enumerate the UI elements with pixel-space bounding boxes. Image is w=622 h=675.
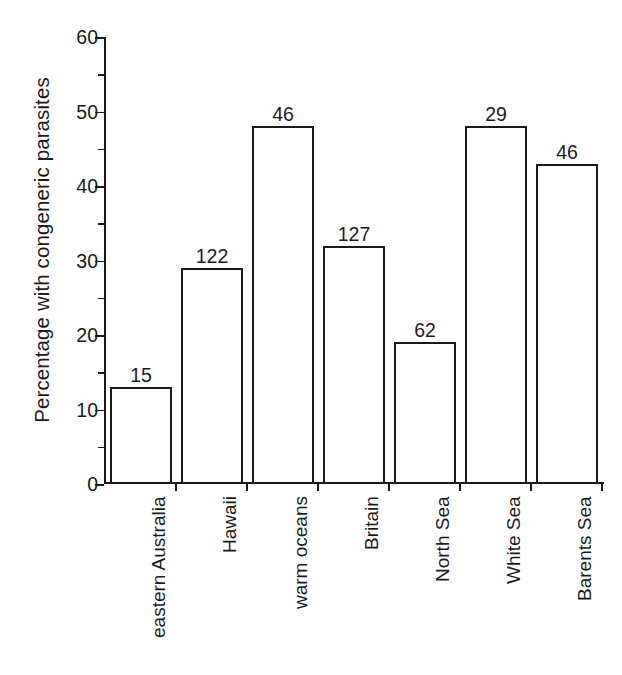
x-tick-mark bbox=[175, 484, 177, 491]
y-minor-tick-15 bbox=[98, 372, 104, 374]
y-tick-label: 30 bbox=[76, 249, 98, 272]
bar-value-label: 46 bbox=[272, 103, 294, 126]
bar-value-label: 29 bbox=[485, 103, 507, 126]
y-tick-label: 10 bbox=[76, 398, 98, 421]
y-minor-tick-25 bbox=[98, 298, 104, 300]
y-tick-label: 40 bbox=[76, 175, 98, 198]
y-tick-label: 60 bbox=[76, 26, 98, 49]
y-axis-title: Percentage with congeneric parasites bbox=[22, 0, 62, 500]
x-category-text: Barents Sea bbox=[574, 496, 596, 601]
x-category-text: warm oceans bbox=[290, 496, 312, 609]
bar-value-label: 15 bbox=[130, 364, 152, 387]
bar: 127 bbox=[323, 246, 385, 484]
x-category-text: White Sea bbox=[503, 496, 525, 584]
x-tick-mark bbox=[317, 484, 319, 491]
plot-area: 0102030405060 1512246127622946 bbox=[104, 37, 604, 484]
bar-value-label: 46 bbox=[556, 141, 578, 164]
bar-value-label: 122 bbox=[196, 245, 229, 268]
bar: 122 bbox=[181, 268, 243, 484]
bar: 46 bbox=[252, 126, 314, 484]
x-tick-mark bbox=[601, 484, 603, 491]
bar: 15 bbox=[110, 387, 172, 484]
x-category-text: Hawaii bbox=[219, 496, 241, 553]
bar: 62 bbox=[394, 342, 456, 484]
y-minor-tick-45 bbox=[98, 149, 104, 151]
y-axis-line bbox=[104, 37, 106, 484]
x-tick-mark bbox=[459, 484, 461, 491]
x-tick-mark bbox=[530, 484, 532, 491]
x-category-text: North Sea bbox=[432, 496, 454, 582]
y-tick-label: 20 bbox=[76, 324, 98, 347]
y-minor-tick-35 bbox=[98, 223, 104, 225]
y-minor-tick-55 bbox=[98, 74, 104, 76]
x-tick-mark bbox=[246, 484, 248, 491]
y-tick-label: 0 bbox=[87, 473, 98, 496]
bar: 46 bbox=[536, 164, 598, 484]
x-category-text: Britain bbox=[361, 496, 383, 550]
bar: 29 bbox=[465, 126, 527, 484]
bar-value-label: 127 bbox=[338, 223, 371, 246]
y-tick-label: 50 bbox=[76, 100, 98, 123]
x-tick-mark bbox=[388, 484, 390, 491]
y-minor-tick-5 bbox=[98, 447, 104, 449]
bar-value-label: 62 bbox=[414, 319, 436, 342]
bar-chart-figure: Percentage with congeneric parasites 010… bbox=[0, 0, 622, 675]
x-category-text: eastern Australia bbox=[148, 496, 170, 638]
